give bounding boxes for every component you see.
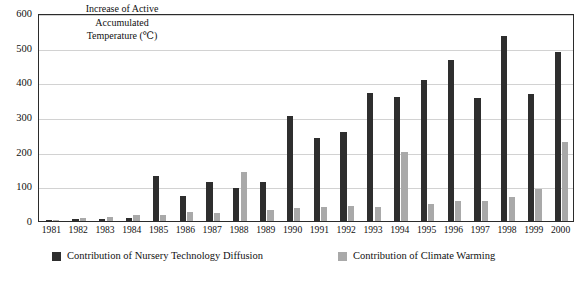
bar <box>72 219 78 221</box>
x-axis-tick-label: 1994 <box>386 224 413 236</box>
x-axis-tick-label: 1996 <box>440 224 467 236</box>
bar-series-container <box>39 15 573 221</box>
x-axis-tick-label: 1983 <box>92 224 119 236</box>
bar-group <box>414 15 441 221</box>
x-axis-tick-label: 1992 <box>333 224 360 236</box>
bar <box>53 220 59 221</box>
x-axis-tick-label: 1993 <box>360 224 387 236</box>
bar <box>126 218 132 221</box>
bar-group <box>307 15 334 221</box>
bar <box>321 207 327 221</box>
bar <box>394 97 400 221</box>
legend-item-label: Contribution of Nursery Technology Diffu… <box>67 250 263 262</box>
bar-group <box>119 15 146 221</box>
y-axis-tick-label: 200 <box>16 148 32 158</box>
legend-item-label: Contribution of Climate Warming <box>353 250 495 262</box>
bar <box>241 172 247 221</box>
bar <box>401 152 407 221</box>
bar-group <box>468 15 495 221</box>
bar <box>180 196 186 221</box>
x-axis-tick-label: 1989 <box>252 224 279 236</box>
bar <box>367 93 373 221</box>
gray-square-icon <box>338 252 347 261</box>
legend-item-nursery-technology-diffusion: Contribution of Nursery Technology Diffu… <box>52 250 263 262</box>
bar <box>340 132 346 221</box>
bar <box>294 208 300 221</box>
bar-group <box>200 15 227 221</box>
bar <box>187 212 193 221</box>
y-axis-tick-label: 100 <box>16 182 32 192</box>
x-axis-tick-label: 1987 <box>199 224 226 236</box>
y-axis-tick-label: 300 <box>16 113 32 123</box>
bar-group <box>93 15 120 221</box>
x-axis-tick-labels: 1981198219831984198519861987198819891990… <box>38 224 574 240</box>
y-axis-tick-label: 500 <box>16 44 32 54</box>
bar-group <box>39 15 66 221</box>
bar-group <box>361 15 388 221</box>
bar-group <box>146 15 173 221</box>
x-axis-tick-label: 2000 <box>547 224 574 236</box>
bar-group <box>548 15 575 221</box>
bar <box>555 52 561 221</box>
bar-group <box>253 15 280 221</box>
bar <box>482 201 488 221</box>
bar <box>160 215 166 221</box>
bar-group <box>521 15 548 221</box>
bar <box>528 94 534 221</box>
bar <box>267 210 273 221</box>
bar-group <box>66 15 93 221</box>
bar <box>80 218 86 221</box>
bar <box>348 206 354 221</box>
bar <box>448 60 454 221</box>
dark-square-icon <box>52 252 61 261</box>
x-axis-tick-label: 1995 <box>413 224 440 236</box>
bar-group <box>441 15 468 221</box>
bar <box>474 98 480 221</box>
x-axis-tick-label: 1999 <box>520 224 547 236</box>
y-axis-tick-label: 600 <box>16 9 32 19</box>
y-axis-tick-label: 0 <box>27 217 32 227</box>
legend-item-climate-warming: Contribution of Climate Warming <box>338 250 495 262</box>
bar-group <box>227 15 254 221</box>
bar <box>421 80 427 221</box>
bar <box>287 116 293 221</box>
chart-legend: Contribution of Nursery Technology Diffu… <box>0 250 579 272</box>
bar <box>107 217 113 221</box>
bar <box>314 138 320 221</box>
bar <box>99 219 105 221</box>
bar <box>233 188 239 221</box>
bar-group <box>280 15 307 221</box>
bar-group <box>387 15 414 221</box>
x-axis-tick-label: 1981 <box>38 224 65 236</box>
bar <box>214 213 220 221</box>
x-axis-tick-label: 1988 <box>226 224 253 236</box>
bar <box>562 142 568 221</box>
bar <box>260 182 266 221</box>
x-axis-tick-label: 1990 <box>279 224 306 236</box>
x-axis-tick-label: 1985 <box>145 224 172 236</box>
x-axis-tick-label: 1997 <box>467 224 494 236</box>
bar <box>375 207 381 221</box>
bar <box>133 215 139 221</box>
bar <box>153 176 159 221</box>
bar <box>535 189 541 221</box>
x-axis-tick-label: 1982 <box>65 224 92 236</box>
bar-group <box>173 15 200 221</box>
bar-chart-figure: Increase of Active Accumulated Temperatu… <box>0 0 579 286</box>
bar <box>455 201 461 221</box>
y-axis-tick-labels: 6005004003002001000 <box>0 14 36 222</box>
y-axis-tick-label: 400 <box>16 78 32 88</box>
bar <box>501 36 507 221</box>
bar-group <box>495 15 522 221</box>
x-axis-tick-label: 1986 <box>172 224 199 236</box>
x-axis-tick-label: 1998 <box>494 224 521 236</box>
plot-area <box>38 14 574 222</box>
bar <box>509 197 515 221</box>
bar <box>206 182 212 221</box>
x-axis-tick-label: 1984 <box>118 224 145 236</box>
x-axis-tick-label: 1991 <box>306 224 333 236</box>
bar-group <box>334 15 361 221</box>
bar <box>46 220 52 221</box>
bar <box>428 204 434 221</box>
